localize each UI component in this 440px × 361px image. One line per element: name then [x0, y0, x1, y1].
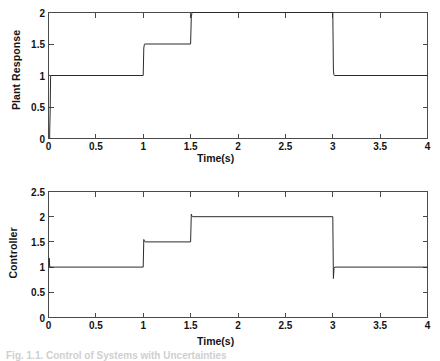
- x-tick-marks: [49, 313, 428, 318]
- x-tick-marks-top: [96, 192, 380, 197]
- y-tick-label: 1.5: [31, 236, 45, 247]
- y-axis-label: Plant Response: [10, 21, 22, 119]
- plant-response-trace: [50, 13, 428, 139]
- x-tick-label: 1: [140, 141, 146, 152]
- x-tick-label: 4: [425, 320, 431, 331]
- x-tick-label: 3.5: [373, 141, 387, 152]
- figure-container: 0 0.5 1 1.5 2 0 0.5 1 1.5 2 2.5 3 3.5 4 …: [0, 0, 440, 361]
- x-tick-label: 0.5: [89, 141, 103, 152]
- y-tick-label: 1: [39, 70, 45, 81]
- x-tick-label: 3.5: [373, 320, 387, 331]
- y-tick-label: 2.5: [31, 186, 45, 197]
- y-tick-label: 0: [39, 133, 45, 144]
- controller-trace: [49, 214, 427, 278]
- x-tick-label: 2.5: [278, 320, 292, 331]
- x-axis-label: Time(s): [197, 152, 234, 164]
- y-tick-label: 0: [39, 312, 45, 323]
- x-tick-label: 0: [46, 320, 52, 331]
- x-tick-label: 2: [235, 141, 241, 152]
- x-tick-marks: [49, 134, 428, 139]
- x-tick-label: 0: [46, 141, 52, 152]
- x-tick-label: 2: [235, 320, 241, 331]
- x-tick-label: 3: [330, 320, 336, 331]
- y-tick-label: 2: [39, 211, 45, 222]
- y-tick-label: 1.5: [31, 39, 45, 50]
- y-axis-label: Controller: [7, 219, 19, 287]
- y-tick-label: 1: [39, 262, 45, 273]
- plot-box: [49, 192, 428, 318]
- x-tick-label: 1.5: [184, 320, 198, 331]
- x-tick-label: 2.5: [278, 141, 292, 152]
- x-tick-label: 4: [425, 141, 431, 152]
- x-tick-label: 1: [140, 320, 146, 331]
- x-tick-label: 1.5: [184, 141, 198, 152]
- figure-caption: Fig. 1.1. Control of Systems with Uncert…: [6, 350, 436, 361]
- y-tick-label: 0.5: [31, 102, 45, 113]
- x-tick-label: 3: [330, 141, 336, 152]
- chart-panel-plant-response: 0 0.5 1 1.5 2 0 0.5 1 1.5 2 2.5 3 3.5 4 …: [0, 0, 440, 175]
- x-tick-marks-top: [96, 13, 380, 18]
- y-tick-label: 2: [39, 7, 45, 18]
- x-axis-label: Time(s): [197, 335, 234, 347]
- x-tick-label: 0.5: [89, 320, 103, 331]
- chart-panel-controller: 0 0.5 1 1.5 2 2.5 0 0.5 1 1.5 2 2.5 3 3.…: [0, 180, 440, 361]
- y-tick-marks: [49, 192, 54, 318]
- controller-plot: [0, 180, 440, 361]
- y-tick-label: 0.5: [31, 287, 45, 298]
- y-tick-marks-right: [423, 217, 428, 293]
